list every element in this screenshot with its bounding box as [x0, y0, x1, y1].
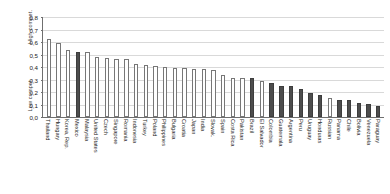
bar[interactable]: [347, 100, 351, 117]
bar-slot: [286, 17, 296, 117]
bar[interactable]: [269, 83, 273, 117]
bar[interactable]: [240, 78, 244, 117]
bar-slot: [296, 17, 306, 117]
bar[interactable]: [85, 52, 89, 117]
bar[interactable]: [357, 103, 361, 117]
bar[interactable]: [211, 70, 215, 117]
x-tick-label: Bolivia: [356, 119, 362, 135]
x-tick-label: Singapore: [113, 119, 119, 144]
bar[interactable]: [192, 69, 196, 117]
x-label-slot: Poland: [150, 118, 160, 194]
x-label-slot: Philippines: [160, 118, 170, 194]
x-tick-label: Uruguay: [307, 119, 313, 140]
x-tick-label: Hungary: [55, 119, 61, 140]
bar-slot: [344, 17, 354, 117]
y-tick-label: 0,4: [22, 64, 38, 71]
x-label-slot: Indonesia: [130, 118, 140, 194]
bar[interactable]: [95, 57, 99, 117]
bar[interactable]: [202, 69, 206, 117]
x-tick-label: Chile: [346, 119, 352, 132]
x-tick-label: El Salvador: [259, 119, 265, 148]
x-tick-label: Colombia: [268, 119, 274, 143]
bar-chart: High compet. Low compet. 0,80,70,60,50,4…: [0, 0, 390, 194]
bar-slot: [199, 17, 209, 117]
bar-slot: [160, 17, 170, 117]
x-label-slot: Bolivia: [354, 118, 364, 194]
bar[interactable]: [153, 66, 157, 117]
bar-slot: [315, 17, 325, 117]
bar-slot: [354, 17, 364, 117]
x-tick-label: Russian: [327, 119, 333, 139]
x-tick-label: Argentina: [288, 119, 294, 143]
x-tick-label: Costa Rica: [230, 119, 236, 146]
x-label-slot: Panama: [335, 118, 345, 194]
bar[interactable]: [56, 43, 60, 117]
x-tick-label: Mexico: [74, 119, 80, 137]
bar[interactable]: [337, 100, 341, 118]
y-tick-label: 0,1: [22, 101, 38, 108]
bar[interactable]: [134, 64, 138, 117]
bar[interactable]: [250, 78, 254, 117]
bar[interactable]: [47, 39, 51, 117]
bar[interactable]: [366, 104, 370, 117]
plot-area: [42, 17, 384, 118]
y-tick-label: 0,5: [22, 51, 38, 58]
bar-slot: [257, 17, 267, 117]
bar-slot: [247, 17, 257, 117]
bar[interactable]: [163, 67, 167, 117]
bar[interactable]: [299, 89, 303, 117]
bar[interactable]: [114, 59, 118, 117]
bar-slot: [63, 17, 73, 117]
x-label-slot: Uruguay: [305, 118, 315, 194]
bar-slot: [306, 17, 316, 117]
bar-slot: [122, 17, 132, 117]
bar-slot: [364, 17, 374, 117]
bar[interactable]: [221, 75, 225, 118]
x-label-slot: Chile: [344, 118, 354, 194]
x-label-slot: Slovak.: [208, 118, 218, 194]
y-tick-label: 0,6: [22, 39, 38, 46]
bar[interactable]: [66, 50, 70, 117]
bar[interactable]: [124, 59, 128, 117]
y-tick-label: 0,3: [22, 76, 38, 83]
bar[interactable]: [308, 93, 312, 117]
bar-slot: [170, 17, 180, 117]
x-label-slot: Spain: [218, 118, 228, 194]
bar-slot: [54, 17, 64, 117]
bar[interactable]: [289, 86, 293, 117]
x-label-slot: Turkey: [140, 118, 150, 194]
y-tick-label: 0,8: [22, 14, 38, 21]
x-label-slot: Korea, Rep.: [62, 118, 72, 194]
bar[interactable]: [76, 52, 80, 117]
x-label-slot: Bulgaria: [169, 118, 179, 194]
x-tick-label: Czech: [103, 119, 109, 135]
x-label-slot: Russian: [325, 118, 335, 194]
bar[interactable]: [279, 86, 283, 117]
x-label-slot: Malaysia: [82, 118, 92, 194]
bar[interactable]: [182, 68, 186, 117]
x-label-slot: El Salvador: [257, 118, 267, 194]
x-tick-label: Japan: [191, 119, 197, 134]
bar[interactable]: [144, 65, 148, 118]
bar[interactable]: [328, 98, 332, 117]
x-label-slot: Paraguay: [373, 118, 383, 194]
x-label-slot: Peru: [296, 118, 306, 194]
x-tick-label: Honduras: [317, 119, 323, 143]
x-label-slot: Brazil: [247, 118, 257, 194]
x-tick-label: Croatia: [181, 119, 187, 137]
x-label-slot: Colombia: [267, 118, 277, 194]
bar-slot: [277, 17, 287, 117]
bar[interactable]: [231, 78, 235, 117]
bar-slot: [141, 17, 151, 117]
bar[interactable]: [376, 106, 380, 117]
bar[interactable]: [260, 81, 264, 117]
bar[interactable]: [318, 95, 322, 118]
x-label-slot: Czech: [101, 118, 111, 194]
bar[interactable]: [105, 58, 109, 117]
x-tick-label: Malaysia: [84, 119, 90, 141]
y-tick-label: 0,0: [22, 114, 38, 121]
bar-slot: [73, 17, 83, 117]
bar-slot: [83, 17, 93, 117]
bar-slot: [180, 17, 190, 117]
bar[interactable]: [173, 68, 177, 117]
